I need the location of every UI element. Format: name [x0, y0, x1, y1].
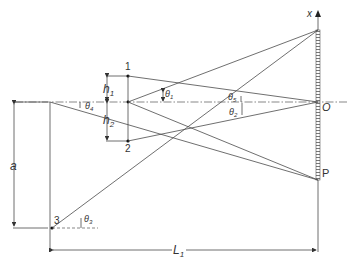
point-1-label: 1 [125, 61, 131, 72]
h1-label: h1 [103, 82, 114, 98]
theta1-label: θ1 [165, 89, 173, 100]
theta5-label: θ5 [228, 92, 237, 103]
rays [50, 30, 318, 228]
point-2-label: 2 [125, 143, 131, 154]
x-axis-label: x [306, 8, 313, 19]
screen [316, 30, 320, 180]
x-axis: x [306, 8, 321, 30]
theta4-label: θ4 [85, 101, 94, 112]
x-axis-arrow-icon [315, 10, 321, 17]
optics-diagram: x h1 h2 1 2 a 3 L1 [0, 0, 349, 264]
h2-label: h2 [103, 113, 115, 129]
point-P-label: P [322, 167, 329, 179]
origin-label: O [322, 101, 331, 113]
a-dimension [13, 102, 48, 228]
point-3-label: 3 [54, 215, 60, 226]
theta3-label: θ3 [84, 214, 93, 225]
a-label: a [10, 159, 17, 173]
theta2-label: θ2 [229, 107, 238, 118]
